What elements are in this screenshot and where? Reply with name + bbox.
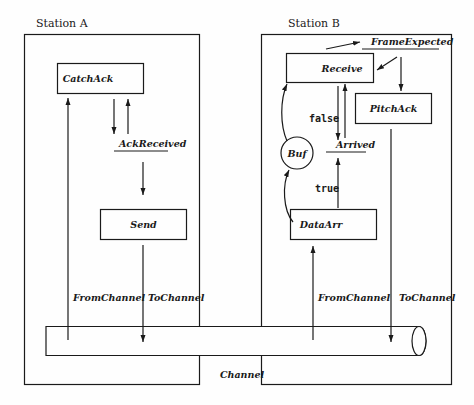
from-channel-b-label: FromChannel	[318, 293, 390, 303]
false-condition-label: false	[309, 114, 339, 124]
to-channel-b-label: ToChannel	[399, 293, 455, 303]
from-channel-a-label: FromChannel	[73, 293, 145, 303]
arrived-variable: Arrived	[336, 140, 375, 150]
catch-ack-label: CatchAck	[58, 64, 118, 93]
frame-expected-variable: FrameExpected	[371, 37, 453, 47]
to-channel-a-label: ToChannel	[148, 293, 204, 303]
receive-label: Receive	[300, 54, 384, 82]
ack-received-variable: AckReceived	[119, 139, 186, 149]
channel-tube	[46, 327, 426, 356]
send-label: Send	[101, 210, 186, 239]
station-a-title: Station A	[36, 18, 88, 29]
pitch-ack-label: PitchAck	[356, 94, 431, 123]
channel-label: Channel	[220, 370, 264, 380]
protocol-diagram: Station A Station B CatchAck Send AckRec…	[0, 0, 474, 405]
diagram-lines	[0, 0, 474, 405]
data-arr-label: DataArr	[291, 210, 351, 239]
buf-label: Buf	[281, 137, 313, 169]
station-b-title: Station B	[288, 18, 340, 29]
true-condition-label: true	[315, 184, 339, 194]
